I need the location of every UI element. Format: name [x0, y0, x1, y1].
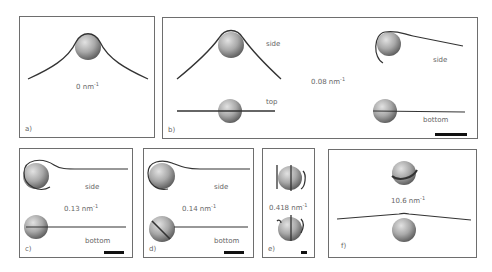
view-label-bottom: bottom [423, 116, 448, 124]
nanoparticle-icon [149, 216, 175, 242]
curvature-label: 0.08 nm-1 [311, 76, 345, 86]
scale-bar [435, 133, 467, 136]
nanoparticle-icon [278, 166, 302, 190]
panel-a: 0 nm-1 a) [19, 16, 155, 138]
nanoparticle-icon [23, 163, 49, 189]
nanoparticle-icon [392, 218, 416, 242]
panel-c: side bottom 0.13 nm-1 c) [19, 148, 133, 258]
curvature-label: 0.14 nm-1 [182, 203, 216, 213]
panel-f: 10.6 nm-1 f) [328, 149, 477, 258]
view-label-side: side [85, 183, 99, 191]
scale-bar [104, 251, 124, 254]
nanoparticle-icon [218, 32, 244, 58]
panel-a-graphic [20, 17, 156, 139]
panel-label: b) [168, 126, 175, 134]
curvature-label: 0.13 nm-1 [64, 203, 98, 213]
curvature-label: 0 nm-1 [76, 81, 99, 91]
nanoparticle-icon [278, 217, 302, 241]
panel-e: 0.418 nm-1 e) [262, 148, 315, 258]
view-label-side: side [214, 183, 228, 191]
nanoparticle-icon [392, 161, 416, 185]
view-label-side: side [433, 56, 447, 64]
scale-bar [224, 251, 244, 254]
panel-label: e) [268, 245, 275, 253]
panel-label: a) [25, 125, 32, 133]
panel-label: f) [341, 242, 346, 250]
view-label-bottom: bottom [214, 237, 239, 245]
panel-b: side top side bottom 0.08 nm-1 b) [162, 17, 478, 139]
scale-bar [301, 251, 307, 254]
panel-label: c) [25, 245, 32, 253]
view-label-bottom: bottom [85, 237, 110, 245]
curvature-label: 10.6 nm-1 [391, 195, 425, 205]
curvature-label: 0.418 nm-1 [269, 202, 308, 212]
nanoparticle-icon [377, 32, 401, 56]
panel-label: d) [149, 245, 156, 253]
panel-d: side bottom 0.14 nm-1 d) [143, 148, 254, 258]
view-label-side: side [266, 40, 280, 48]
view-label-top: top [266, 98, 277, 106]
